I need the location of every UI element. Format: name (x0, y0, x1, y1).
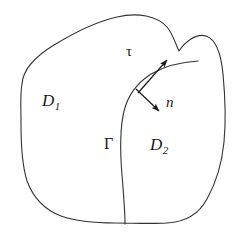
label-domain-1-subscript: 1 (55, 100, 61, 112)
label-domain-2-base: D (150, 135, 162, 154)
label-domain-1: D1 (42, 92, 60, 109)
label-normal-n: n (166, 95, 174, 110)
tangent-vector-arrow (138, 60, 167, 93)
label-tangent-tau: τ (126, 44, 132, 59)
normal-vector-arrow (136, 89, 159, 111)
geometry-diagram: D1 D2 Γ τ n (0, 0, 250, 240)
label-domain-2-subscript: 2 (163, 144, 169, 156)
label-domain-1-base: D (42, 91, 54, 110)
label-domain-2: D2 (150, 136, 168, 153)
diagram-canvas (0, 0, 250, 240)
label-interface-gamma: Γ (104, 136, 113, 152)
